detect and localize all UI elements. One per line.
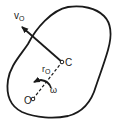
center-label: C (65, 57, 72, 68)
rigid-body-diagram: vO C rO ω O (0, 0, 120, 123)
omega-label: ω (50, 85, 57, 95)
velocity-label: vO (14, 10, 25, 22)
point-c (60, 60, 64, 64)
body-outline (8, 6, 111, 117)
origin-label: O (24, 95, 32, 106)
radius-label: rO (42, 64, 51, 75)
